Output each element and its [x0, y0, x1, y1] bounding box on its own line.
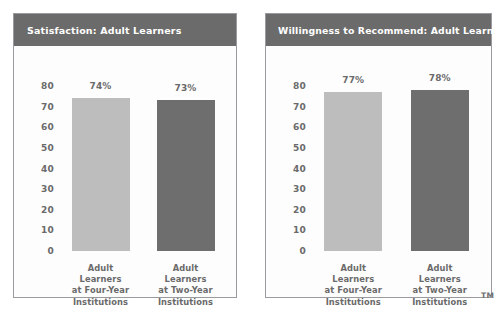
figure-canvas: Satisfaction: Adult Learners 80706050403…: [0, 0, 504, 319]
plot-area-willingness: 80706050403020100 77%AdultLearnersat Fou…: [266, 46, 491, 297]
bar-column: 78%AdultLearnersat Two-YearInstitutions: [397, 46, 484, 297]
bar-category-line: Adult: [58, 263, 144, 274]
bar: [411, 90, 469, 251]
y-axis-tick-80: 80: [24, 81, 54, 91]
bar-group-satisfaction: 74%AdultLearnersat Four-YearInstitutions…: [58, 46, 228, 297]
y-axis-tick-30: 30: [24, 184, 54, 194]
bar-category-label: AdultLearnersat Four-YearInstitutions: [310, 263, 396, 308]
y-axis-tick-60: 60: [276, 122, 306, 132]
bar-value-label: 73%: [157, 83, 215, 93]
y-axis-tick-70: 70: [276, 102, 306, 112]
bar-category-line: Adult: [397, 263, 483, 274]
bar-category-line: Institutions: [397, 297, 483, 308]
bar-category-line: Learners: [143, 274, 229, 285]
chart-header-bar: Willingness to Recommend: Adult Learners: [266, 14, 491, 46]
bar-category-line: Institutions: [310, 297, 396, 308]
bar-category-line: at Two-Year: [143, 285, 229, 296]
bar-category-line: Learners: [310, 274, 396, 285]
y-axis-tick-40: 40: [276, 164, 306, 174]
chart-panel-willingness: Willingness to Recommend: Adult Learners…: [265, 13, 492, 298]
chart-title-satisfaction: Satisfaction: Adult Learners: [27, 25, 181, 36]
chart-panel-satisfaction: Satisfaction: Adult Learners 80706050403…: [13, 13, 237, 298]
y-axis-tick-70: 70: [24, 102, 54, 112]
chart-header-bar: Satisfaction: Adult Learners: [14, 14, 236, 46]
chart-title-willingness: Willingness to Recommend: Adult Learners: [278, 25, 504, 36]
bar-category-line: at Four-Year: [58, 285, 144, 296]
bar-category-line: at Two-Year: [397, 285, 483, 296]
trademark-mark: TM: [481, 291, 494, 300]
y-axis-tick-20: 20: [24, 205, 54, 215]
y-axis-tick-0: 0: [276, 246, 306, 256]
bar-category-label: AdultLearnersat Four-YearInstitutions: [58, 263, 144, 308]
bar-value-label: 74%: [72, 81, 130, 91]
bar-category-label: AdultLearnersat Two-YearInstitutions: [143, 263, 229, 308]
bar-category-line: Learners: [397, 274, 483, 285]
y-axis-tick-60: 60: [24, 122, 54, 132]
y-axis-tick-20: 20: [276, 205, 306, 215]
bar-category-line: Institutions: [58, 297, 144, 308]
bar-value-label: 78%: [411, 73, 469, 83]
y-axis-tick-30: 30: [276, 184, 306, 194]
plot-area-satisfaction: 80706050403020100 74%AdultLearnersat Fou…: [14, 46, 236, 297]
bar-column: 73%AdultLearnersat Two-YearInstitutions: [143, 46, 228, 297]
y-axis-tick-80: 80: [276, 81, 306, 91]
bar-category-line: at Four-Year: [310, 285, 396, 296]
bar-column: 74%AdultLearnersat Four-YearInstitutions: [58, 46, 143, 297]
bar-category-label: AdultLearnersat Two-YearInstitutions: [397, 263, 483, 308]
bar-value-label: 77%: [324, 75, 382, 85]
y-axis-satisfaction: 80706050403020100: [24, 46, 54, 297]
bar-column: 77%AdultLearnersat Four-YearInstitutions: [310, 46, 397, 297]
y-axis-tick-50: 50: [24, 143, 54, 153]
bar-category-line: Institutions: [143, 297, 229, 308]
bar-category-line: Learners: [58, 274, 144, 285]
bar: [72, 98, 130, 251]
y-axis-tick-10: 10: [24, 225, 54, 235]
bar: [157, 100, 215, 251]
y-axis-tick-50: 50: [276, 143, 306, 153]
y-axis-tick-0: 0: [24, 246, 54, 256]
bar-group-willingness: 77%AdultLearnersat Four-YearInstitutions…: [310, 46, 483, 297]
y-axis-willingness: 80706050403020100: [276, 46, 306, 297]
y-axis-tick-40: 40: [24, 164, 54, 174]
bar-category-line: Adult: [143, 263, 229, 274]
bar-category-line: Adult: [310, 263, 396, 274]
bar: [324, 92, 382, 251]
y-axis-tick-10: 10: [276, 225, 306, 235]
